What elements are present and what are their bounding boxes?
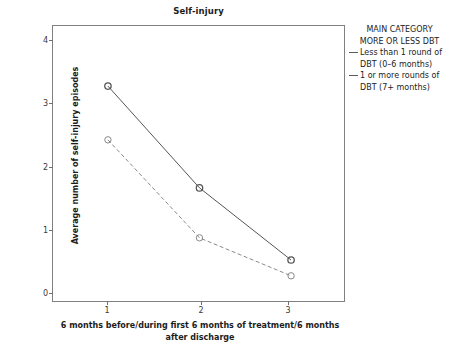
y-tick-label-0: 0: [31, 289, 53, 298]
data-point-marker: [288, 273, 294, 279]
legend-title-line2: MORE OR LESS DBT: [349, 36, 450, 48]
x-tick-label-3: 3: [273, 306, 303, 315]
series-line-1: [108, 140, 291, 276]
legend-entry-label-line2: DBT (0–6 months): [360, 59, 458, 71]
plot-area: Average number of self-injury episodes 0…: [52, 25, 345, 302]
y-tick-label-4: 4: [31, 36, 53, 45]
x-axis-label: 6 months before/during first 6 months of…: [20, 320, 380, 344]
chart-legend: MAIN CATEGORY MORE OR LESS DBT Less than…: [349, 24, 458, 93]
legend-entry-less-than-one-round[interactable]: Less than 1 round of DBT (0–6 months): [349, 47, 458, 70]
x-axis-label-line2: after discharge: [20, 332, 380, 344]
y-tick-label-3: 3: [31, 99, 53, 108]
legend-title-line1: MAIN CATEGORY: [349, 24, 450, 36]
y-tick-label-2: 2: [31, 162, 53, 171]
x-axis-label-line1: 6 months before/during first 6 months of…: [20, 320, 380, 332]
legend-line-icon-solid-2: [349, 75, 358, 76]
legend-entry-label-line1: 1 or more rounds of: [360, 70, 458, 82]
legend-line-icon-solid: [349, 52, 358, 53]
data-point-marker: [196, 235, 202, 241]
series-layer: [53, 26, 346, 303]
series-line-0: [108, 86, 291, 260]
legend-entry-label-line2: DBT (7+ months): [360, 82, 458, 94]
y-tick-label-1: 1: [31, 225, 53, 234]
legend-entry-label-line1: Less than 1 round of: [360, 47, 458, 59]
chart-title: Self-injury: [52, 6, 345, 16]
x-tick-label-2: 2: [186, 306, 216, 315]
legend-entry-one-or-more-rounds[interactable]: 1 or more rounds of DBT (7+ months): [349, 70, 458, 93]
chart-figure: Self-injury Average number of self-injur…: [0, 0, 458, 363]
x-tick-label-1: 1: [92, 306, 122, 315]
